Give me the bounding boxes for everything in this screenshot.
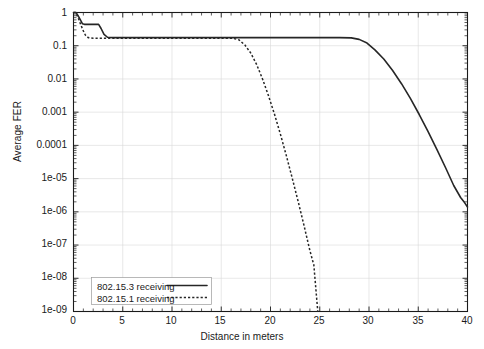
- y-tick-label: 1e-06: [41, 205, 67, 216]
- legend-label-0: 802.15.3 receiving: [97, 281, 175, 292]
- x-tick-label: 30: [348, 315, 388, 326]
- x-tick-label: 20: [250, 315, 290, 326]
- y-tick-label: 1: [61, 7, 67, 18]
- y-tick-label: 0.001: [42, 106, 67, 117]
- y-tick-label: 0.1: [53, 40, 67, 51]
- gridlines: [74, 13, 468, 312]
- y-tick-label: 0.01: [48, 73, 67, 84]
- y-tick-label: 1e-08: [41, 271, 67, 282]
- y-tick-label: 0.0001: [36, 139, 67, 150]
- chart-figure: Average FER Distance in meters 1 0.1 0.0…: [0, 0, 484, 349]
- x-tick-label: 0: [53, 315, 93, 326]
- legend-label-1: 802.15.1 receiving: [97, 293, 175, 304]
- x-axis-label: Distance in meters: [0, 331, 484, 342]
- y-tick-label: 1e-07: [41, 238, 67, 249]
- x-tick-label: 10: [151, 315, 191, 326]
- x-tick-label: 35: [398, 315, 438, 326]
- series-line-1: [74, 13, 318, 312]
- x-tick-label: 25: [299, 315, 339, 326]
- y-tick-label: 1e-05: [41, 172, 67, 183]
- x-tick-label: 15: [200, 315, 240, 326]
- plot-canvas: [0, 0, 484, 349]
- y-tick-label: 1e-09: [41, 304, 67, 315]
- x-tick-label: 40: [447, 315, 484, 326]
- y-axis-label: Average FER: [12, 82, 23, 182]
- x-tick-label: 5: [102, 315, 142, 326]
